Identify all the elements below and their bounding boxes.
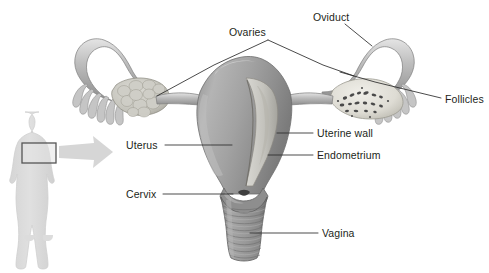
pelvis-region-box	[22, 143, 56, 163]
silhouette-foot-right	[43, 235, 53, 241]
label-vagina: Vagina	[322, 228, 355, 239]
ovaries-right-leader	[268, 40, 354, 76]
silhouette-body	[10, 112, 55, 269]
anatomy-illustration	[0, 0, 489, 273]
label-ovaries: Ovaries	[229, 27, 266, 38]
label-uterine-wall: Uterine wall	[317, 128, 373, 139]
diagram-canvas: Ovaries Oviduct Follicles Uterus Uterine…	[0, 0, 489, 273]
label-cervix: Cervix	[126, 189, 156, 200]
label-oviduct: Oviduct	[313, 12, 349, 23]
uterine-wall-myometrium	[197, 56, 292, 194]
label-uterus: Uterus	[126, 140, 158, 151]
right-tube-isthmus	[289, 93, 333, 105]
label-endometrium: Endometrium	[317, 150, 381, 161]
left-tube-isthmus	[156, 93, 200, 105]
silhouette-foot-left	[25, 235, 35, 241]
right-ovary-sectioned	[330, 79, 403, 119]
zoom-arrow	[59, 136, 113, 168]
oviduct-leader	[345, 24, 372, 46]
female-body-silhouette	[10, 112, 56, 269]
label-follicles: Follicles	[445, 94, 484, 105]
